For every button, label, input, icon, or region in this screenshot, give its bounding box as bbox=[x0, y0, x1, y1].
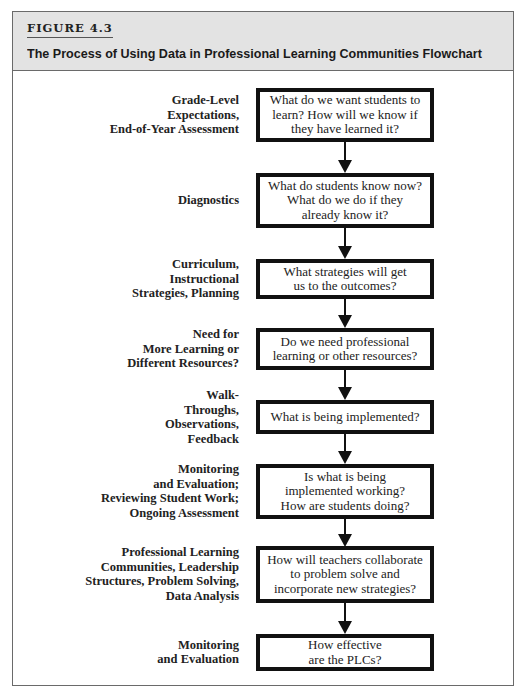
arrow-head-icon bbox=[338, 160, 352, 173]
arrow-head-icon bbox=[338, 387, 352, 400]
step-label-8: Monitoring and Evaluation bbox=[157, 634, 239, 670]
step-box-5: What is being implemented? bbox=[256, 400, 434, 434]
step-box-8: How effective are the PLCs? bbox=[256, 634, 434, 671]
step-box-3: What strategies will get us to the outco… bbox=[256, 259, 434, 299]
step-label-7: Professional Learning Communities, Leade… bbox=[85, 544, 239, 604]
arrow-head-icon bbox=[338, 621, 352, 634]
step-box-1: What do we want students to learn? How w… bbox=[256, 88, 434, 142]
arrow-1-2 bbox=[344, 142, 346, 162]
step-label-6: Monitoring and Evaluation; Reviewing Stu… bbox=[101, 461, 239, 521]
step-label-4: Need for More Learning or Different Reso… bbox=[127, 322, 239, 376]
step-box-7: How will teachers collaborate to problem… bbox=[256, 546, 434, 603]
step-label-3: Curriculum, Instructional Strategies, Pl… bbox=[132, 252, 239, 306]
arrow-head-icon bbox=[338, 246, 352, 259]
arrow-head-icon bbox=[338, 451, 352, 464]
figure-header: FIGURE 4.3 The Process of Using Data in … bbox=[13, 12, 513, 71]
step-label-5: Walk- Throughs, Observations, Feedback bbox=[165, 387, 239, 447]
figure-title: The Process of Using Data in Professiona… bbox=[27, 46, 482, 61]
arrow-2-3 bbox=[344, 228, 346, 248]
step-label-2: Diagnostics bbox=[178, 173, 239, 228]
step-label-1: Grade-Level Expectations, End-of-Year As… bbox=[110, 88, 239, 142]
step-box-6: Is what is being implemented working? Ho… bbox=[256, 464, 434, 519]
arrow-7-8 bbox=[344, 603, 346, 622]
arrow-head-icon bbox=[338, 315, 352, 328]
figure-label: FIGURE 4.3 bbox=[27, 21, 113, 38]
step-box-2: What do students know now? What do we do… bbox=[256, 173, 434, 228]
step-box-4: Do we need professional learning or othe… bbox=[256, 328, 434, 370]
